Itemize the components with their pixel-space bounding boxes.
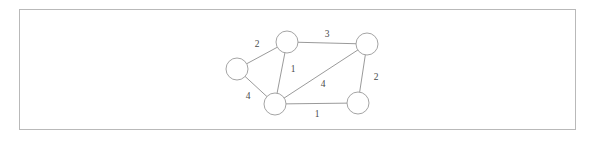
- edge-weight-label: 1: [291, 64, 296, 74]
- graph-node: [276, 31, 298, 53]
- figure-container: 2314421: [0, 0, 595, 143]
- graph-node: [264, 93, 286, 115]
- graph-node: [347, 92, 369, 114]
- edge-weight-label: 3: [325, 29, 330, 39]
- edge-weight-label: 1: [315, 109, 320, 119]
- edge-weight-label: 2: [374, 72, 379, 82]
- edge-weight-label: 4: [246, 91, 251, 101]
- graph-node: [226, 58, 248, 80]
- graph-node: [356, 33, 378, 55]
- edge-weight-label: 2: [255, 39, 260, 49]
- figure-border-frame: [20, 10, 576, 130]
- graph-diagram: 2314421: [0, 0, 595, 143]
- edge-weight-label: 4: [321, 79, 326, 89]
